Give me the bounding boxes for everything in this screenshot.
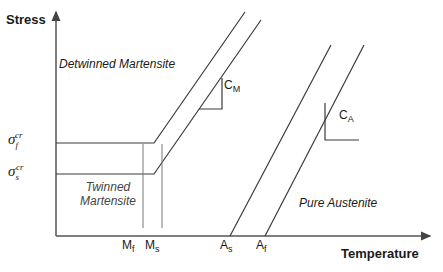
cm-label: CM — [224, 78, 240, 94]
ca-label: CA — [339, 108, 354, 124]
as-label: As — [220, 238, 233, 254]
sigma-s-boundary — [56, 20, 261, 174]
detwinned-martensite-label: Detwinned Martensite — [59, 57, 175, 71]
sigma-f-label: σfcr — [8, 130, 22, 150]
ms-label: Ms — [145, 238, 160, 254]
sigma-f-boundary — [56, 12, 245, 143]
pure-austenite-label: Pure Austenite — [299, 196, 377, 210]
y-axis-label: Stress — [6, 12, 46, 27]
mf-label: Mf — [122, 238, 135, 254]
phase-diagram — [0, 0, 443, 272]
twinned-martensite-label: Twinned Martensite — [75, 180, 141, 208]
sigma-s-label: σscr — [8, 162, 23, 182]
x-axis-label: Temperature — [341, 246, 419, 261]
af-label: Af — [256, 238, 267, 254]
